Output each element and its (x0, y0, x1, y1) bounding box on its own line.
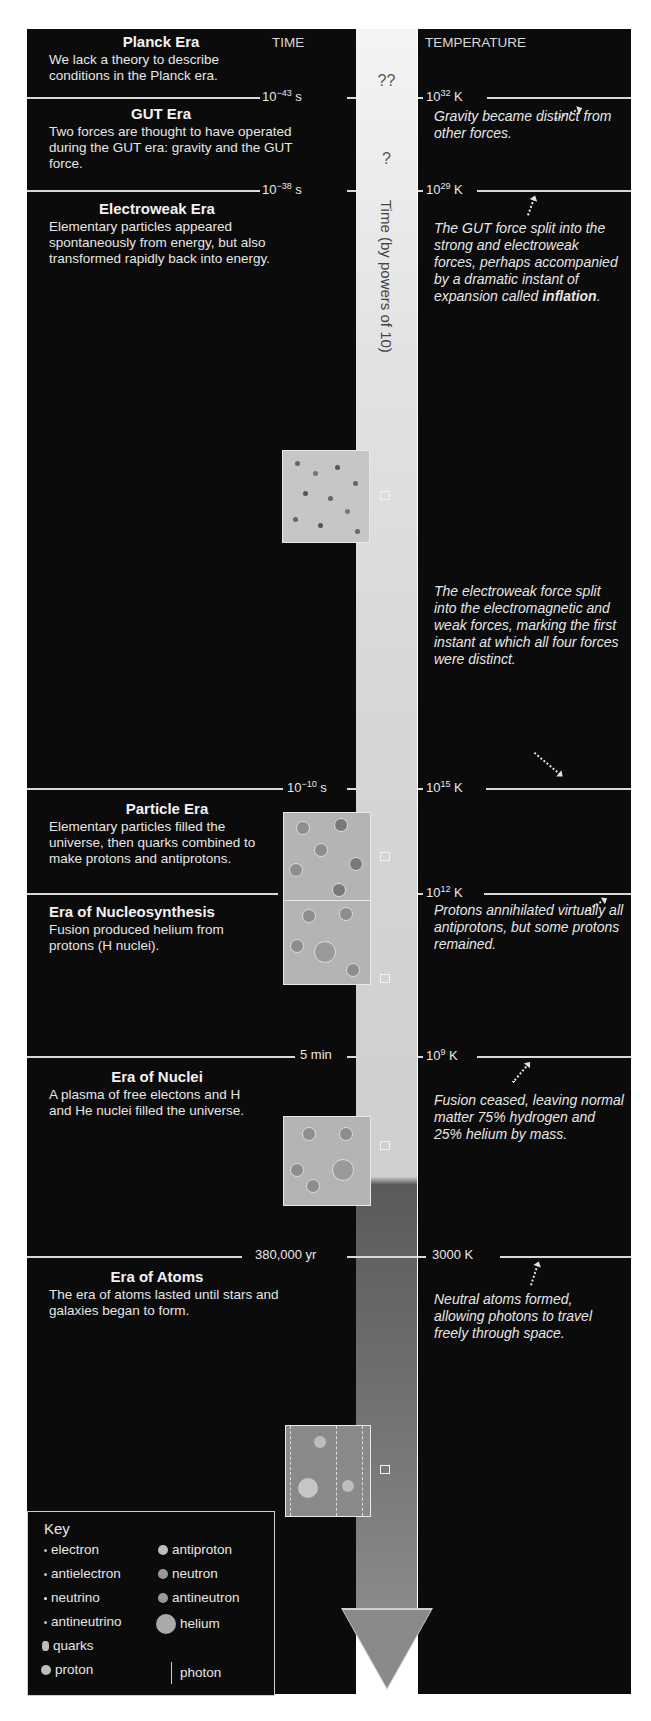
divider-electroweak-particle-left (27, 788, 283, 790)
antineutrino-icon (44, 1621, 47, 1624)
era-desc-planck: We lack a theory to describe conditions … (49, 52, 279, 84)
time-label-gut-end: 10−38 s (262, 181, 302, 197)
key-quarks: quarks (42, 1638, 94, 1653)
divider-planck-gut-rtick (418, 97, 423, 99)
time-label-nuclei-end: 380,000 yr (255, 1247, 316, 1262)
key-neutron: neutron (158, 1566, 218, 1581)
legend-key: Key electron antielectron neutrino antin… (27, 1511, 275, 1696)
electroweak-era-illustration (282, 450, 370, 543)
note-electroweak-split: The electroweak force split into the ele… (434, 583, 624, 668)
key-electron: electron (44, 1542, 99, 1557)
divider-electroweak-particle-tick (347, 788, 356, 790)
neutron-icon (158, 1569, 168, 1579)
zoom-marker (380, 852, 390, 861)
nuclei-era-illustration (283, 1116, 371, 1206)
note-gravity: Gravity became distinct from other force… (434, 108, 614, 142)
era-desc-atoms: The era of atoms lasted until stars and … (49, 1287, 329, 1319)
era-title-planck: Planck Era (27, 33, 295, 50)
era-title-nuclei: Era of Nuclei (27, 1068, 287, 1085)
era-title-electroweak: Electroweak Era (27, 200, 287, 217)
zoom-marker (380, 974, 390, 983)
electron-icon (44, 1549, 47, 1552)
neutrino-icon (44, 1597, 47, 1600)
era-title-gut: GUT Era (27, 105, 295, 122)
era-desc-nucleosynthesis: Fusion produced helium from protons (H n… (49, 922, 249, 954)
era-title-particle: Particle Era (27, 800, 307, 817)
key-neutrino: neutrino (44, 1590, 100, 1605)
quarks-icon (42, 1641, 49, 1651)
divider-nucleosynthesis-nuclei-left (27, 1056, 295, 1058)
divider-planck-gut-left (27, 97, 260, 99)
zoom-marker (380, 1465, 390, 1474)
key-proton: proton (41, 1662, 93, 1677)
key-antiproton: antiproton (158, 1542, 232, 1557)
divider-nuclei-atoms-tick (347, 1256, 417, 1258)
divider-electroweak-particle-right (486, 788, 631, 790)
time-label-nucleosynthesis-end: 5 min (300, 1047, 332, 1062)
key-antineutron: antineutron (158, 1590, 240, 1605)
time-axis-label: Time (by powers of 10) (356, 200, 417, 410)
temp-label-nucleosynthesis-end: 109 K (426, 1047, 458, 1063)
time-arrow-head-icon (343, 1610, 431, 1688)
time-label-electroweak-end: 10−10 s (287, 779, 327, 795)
key-helium: helium (156, 1614, 220, 1634)
era-desc-particle: Elementary particles filled the universe… (49, 819, 259, 867)
temp-label-planck-end: 1032 K (426, 88, 463, 104)
divider-gut-electroweak-right (477, 190, 631, 192)
divider-nuclei-atoms-right (500, 1256, 631, 1258)
helium-icon (156, 1614, 176, 1634)
divider-gut-electroweak-rtick (418, 190, 423, 192)
key-antineutrino: antineutrino (44, 1614, 122, 1629)
divider-planck-gut-tick (347, 97, 356, 99)
antiproton-icon (158, 1545, 168, 1555)
divider-nuclei-atoms-rtick (418, 1256, 426, 1258)
divider-nuclei-atoms-left (27, 1256, 242, 1258)
temp-label-electroweak-end: 1015 K (426, 779, 463, 795)
era-title-atoms: Era of Atoms (27, 1268, 287, 1285)
key-photon: photon (171, 1662, 221, 1684)
era-desc-electroweak: Elementary particles appeared spontaneou… (49, 219, 299, 267)
zoom-marker (380, 491, 390, 500)
key-title: Key (44, 1520, 70, 1537)
divider-gut-electroweak-tick (347, 190, 356, 192)
atoms-era-illustration (285, 1425, 371, 1517)
temp-label-particle-end: 1012 K (426, 884, 463, 900)
nucleosynthesis-illustration (283, 900, 371, 985)
antineutron-icon (158, 1593, 168, 1603)
divider-particle-nucleosynthesis-left (27, 893, 278, 895)
divider-nucleosynthesis-nuclei-rtick (418, 1056, 423, 1058)
divider-planck-gut-right (487, 97, 631, 99)
proton-icon (41, 1665, 51, 1675)
antielectron-icon (44, 1573, 47, 1576)
key-antielectron: antielectron (44, 1566, 121, 1581)
era-desc-nuclei: A plasma of free electons and H and He n… (49, 1087, 259, 1119)
time-axis-label-text: Time (by powers of 10) (378, 200, 395, 353)
note-annihilation: Protons annihilated virtually all antipr… (434, 902, 624, 953)
particle-era-illustration (283, 812, 371, 905)
planck-unknown-marker: ?? (356, 72, 417, 90)
temp-label-gut-end: 1029 K (426, 181, 463, 197)
photon-icon (171, 1662, 172, 1684)
note-gut-split: The GUT force split into the strong and … (434, 220, 624, 305)
divider-particle-nucleosynthesis-right (484, 893, 631, 895)
note-neutral-atoms: Neutral atoms formed, allowing photons t… (434, 1291, 624, 1342)
era-title-nucleosynthesis: Era of Nucleosynthesis (49, 903, 264, 920)
temp-label-nuclei-end: 3000 K (432, 1247, 473, 1262)
divider-gut-electroweak-left (27, 190, 260, 192)
era-desc-gut: Two forces are thought to have operated … (49, 124, 299, 172)
divider-nucleosynthesis-nuclei-tick (347, 1056, 356, 1058)
divider-particle-nucleosynthesis-rtick (418, 893, 423, 895)
zoom-marker (380, 1141, 390, 1150)
temperature-column-header: TEMPERATURE (425, 35, 526, 50)
gut-unknown-marker: ? (356, 150, 417, 168)
note-fusion-ceased: Fusion ceased, leaving normal matter 75%… (434, 1092, 624, 1143)
divider-electroweak-particle-rtick (418, 788, 423, 790)
divider-nucleosynthesis-nuclei-right (477, 1056, 631, 1058)
time-label-planck-end: 10−43 s (262, 88, 302, 104)
